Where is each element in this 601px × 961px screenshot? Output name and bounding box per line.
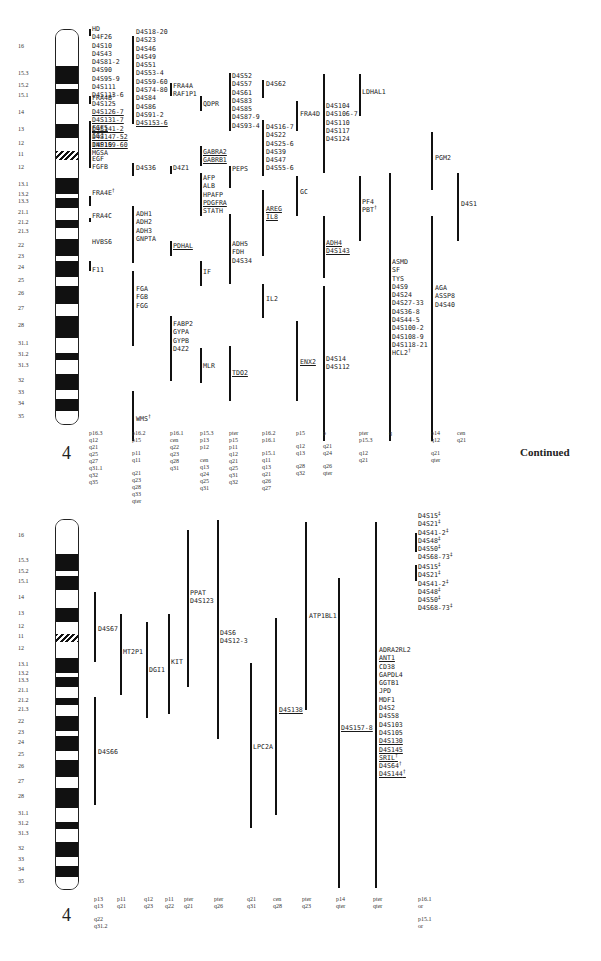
- chromosome-4-gene-map: 1615.315.215.1141312111213.113.213.321.1…: [0, 0, 601, 961]
- gene-label: GAPDL4: [379, 671, 411, 679]
- gene-label: D4S138: [279, 706, 303, 714]
- region-label: qter: [336, 903, 345, 910]
- gene-symbol: D4S85: [232, 105, 252, 113]
- gene-label: D4S112: [326, 363, 350, 371]
- region-label: q11: [132, 457, 146, 464]
- gene-label: D4S14: [326, 355, 350, 363]
- region-label: cen: [273, 896, 282, 903]
- chromosome-band: [56, 198, 78, 208]
- gene-symbol: ALB: [203, 182, 215, 190]
- region-label: q12: [229, 451, 238, 458]
- chromosome-band: [56, 138, 78, 151]
- gene-symbol: RAF1P1: [173, 90, 197, 98]
- band-label: 11: [18, 633, 42, 639]
- mapping-range-bar: [338, 578, 340, 888]
- gene-label: MT2P1: [123, 648, 143, 656]
- band-label: 12: [18, 140, 42, 146]
- gene-symbol: HVBS6: [92, 238, 112, 246]
- gene-label: D4S106-7: [326, 110, 358, 118]
- region-labels: pterq23: [302, 896, 311, 910]
- gene-label: JPD: [379, 687, 411, 695]
- gene-symbol: D4S48: [418, 588, 438, 596]
- gene-symbol: D4S67: [98, 625, 118, 633]
- region-label: or: [418, 923, 432, 930]
- gene-symbol: D4S143: [326, 247, 350, 255]
- chromosome-band: [56, 687, 78, 698]
- gene-list: PPATD4S123: [190, 589, 214, 606]
- gene-list: FABP2GYPAGYPBD4Z2: [173, 320, 193, 353]
- region-label: q26: [262, 478, 276, 485]
- gene-symbol: GYPB: [173, 337, 189, 345]
- region-label: q13: [200, 464, 214, 471]
- gene-label: D4S40: [435, 301, 455, 309]
- gene-symbol: INP10: [92, 141, 112, 149]
- gene-symbol: PGM2: [435, 154, 451, 162]
- gene-label: D4S41-2‡: [418, 529, 453, 537]
- chromosome-band: [56, 751, 78, 760]
- mapping-range-bar: [296, 176, 298, 216]
- gene-label: D4S66: [98, 748, 118, 756]
- gene-list: D4S67: [98, 625, 118, 633]
- chromosome-band: [56, 576, 78, 590]
- region-labels: cenq28: [273, 896, 282, 910]
- gene-symbol: D4S2: [379, 704, 395, 712]
- gene-list: D4S14D4S112: [326, 355, 350, 372]
- band-label: 21.2: [18, 697, 42, 703]
- gene-symbol: F11: [92, 266, 104, 274]
- chromosome-band: [56, 736, 78, 751]
- region-label: q12: [89, 437, 103, 444]
- chromosome-band: [56, 228, 78, 239]
- gene-label: IL2: [266, 295, 278, 303]
- region-label: q25: [200, 478, 214, 485]
- gene-list: EGFFGFB: [92, 155, 108, 172]
- band-label: 15.2: [18, 568, 42, 574]
- band-label: 13.3: [18, 677, 42, 683]
- region-label: q21: [431, 450, 440, 457]
- gene-symbol: GYPA: [173, 328, 189, 336]
- gene-list: IF: [203, 268, 211, 276]
- gene-label: EGF: [92, 155, 108, 163]
- gene-symbol: D4S43: [92, 50, 112, 58]
- gene-symbol: D4S93-4: [232, 122, 260, 130]
- region-label: q: [389, 430, 392, 437]
- gene-footnote-mark: †: [399, 760, 402, 766]
- region-label: qter: [323, 470, 332, 477]
- mapping-range-bar: [132, 163, 134, 176]
- gene-list: WMS†: [136, 415, 151, 423]
- region-labels: q21q31: [247, 896, 256, 910]
- region-label: q21: [247, 896, 256, 903]
- gene-symbol: IL2: [266, 295, 278, 303]
- gene-list: FRA4E†: [92, 189, 115, 197]
- gene-label: D4S57: [232, 80, 260, 88]
- gene-symbol: FRA4D: [300, 110, 320, 118]
- region-label: q25: [89, 451, 103, 458]
- gene-label: ADH4: [326, 239, 350, 247]
- gene-symbol: D4S138: [279, 706, 303, 714]
- gene-symbol: D4S87-9: [232, 113, 260, 121]
- gene-symbol: ADH3: [136, 227, 152, 235]
- chromosome-band: [56, 760, 78, 777]
- band-label: 21.1: [18, 687, 42, 693]
- chromosome-ideogram: [55, 29, 79, 425]
- region-labels: q12q23: [144, 896, 153, 910]
- band-label: 14: [18, 109, 42, 115]
- gene-symbol: PEPS: [232, 165, 248, 173]
- mapping-range-bar: [262, 190, 264, 256]
- gene-symbol: D4S124: [326, 135, 350, 143]
- gene-symbol: AFP: [203, 174, 215, 182]
- band-label: 35: [18, 878, 42, 884]
- region-label: p16.1: [418, 896, 432, 903]
- gene-label: D4S61: [232, 89, 260, 97]
- gene-label: D4S74-80: [136, 86, 168, 94]
- gene-symbol: FRA4E: [92, 189, 112, 197]
- region-label: q23: [170, 451, 184, 458]
- chromosome-band: [56, 705, 78, 715]
- region-labels: p16.3q12q21q25q27q31.1q32q35: [89, 430, 103, 486]
- gene-label: F11: [92, 266, 104, 274]
- gene-label: FDH: [232, 248, 252, 256]
- gene-footnote-mark: ‡: [438, 594, 441, 600]
- chromosome-band: [56, 304, 78, 316]
- band-label: 23: [18, 253, 42, 259]
- band-label: 12: [18, 623, 42, 629]
- gene-label: D4S124: [326, 135, 358, 143]
